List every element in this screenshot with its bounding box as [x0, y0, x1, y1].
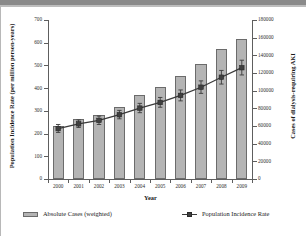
x-tick-mark — [232, 180, 233, 183]
y-right-tick-label: 140000 — [258, 53, 274, 58]
y-left-tick-label: 700 — [34, 17, 42, 22]
y-left-tick-label: 500 — [34, 63, 42, 68]
chart-legend: Absolute Cases (weighted) Population Inc… — [0, 208, 306, 222]
y-right-tick-mark — [253, 144, 257, 145]
x-tick-mark — [191, 180, 192, 183]
x-tick-label: 2009 — [228, 184, 256, 189]
y-left-tick-mark — [44, 134, 48, 135]
legend-label-incidence-rate: Population Incidence Rate — [202, 211, 269, 217]
x-tick-mark — [130, 180, 131, 183]
y-right-tick-mark — [253, 126, 257, 127]
x-tick-mark — [89, 180, 90, 183]
y-right-tick-mark — [253, 20, 257, 21]
legend-label-absolute-cases: Absolute Cases (weighted) — [43, 211, 112, 217]
x-tick-mark — [109, 180, 110, 183]
y-axis-right — [252, 20, 253, 180]
x-tick-mark — [252, 180, 253, 183]
x-tick-mark — [211, 180, 212, 183]
chart-figure: 0100200300400500600700 02000040000600008… — [0, 0, 306, 236]
x-tick-mark — [150, 180, 151, 183]
y-left-tick-label: 300 — [34, 108, 42, 113]
y-axis-left-title: Population Incidence Rate (per million p… — [9, 14, 15, 178]
legend-line-swatch-icon — [182, 211, 197, 218]
bar — [73, 119, 84, 179]
bar — [114, 107, 125, 179]
legend-item-incidence-rate: Population Incidence Rate — [182, 208, 269, 220]
bar — [53, 126, 64, 179]
bar — [134, 95, 145, 179]
y-right-tick-mark — [253, 108, 257, 109]
legend-bar-swatch-icon — [23, 212, 38, 217]
bar — [236, 39, 247, 179]
y-right-tick-mark — [253, 179, 257, 180]
x-axis-title: Year — [48, 195, 253, 201]
y-right-tick-mark — [253, 38, 257, 39]
y-left-tick-mark — [44, 20, 48, 21]
bar — [155, 87, 166, 179]
x-tick-mark — [48, 180, 49, 183]
y-right-tick-label: 20000 — [258, 159, 271, 164]
y-right-tick-label: 120000 — [258, 70, 274, 75]
y-axis-right-title: Cases of dialysis-requiring AKI — [290, 16, 296, 176]
x-tick-mark — [170, 180, 171, 183]
bar — [175, 76, 186, 179]
y-right-tick-mark — [253, 91, 257, 92]
bar — [93, 115, 104, 179]
y-right-tick-mark — [253, 73, 257, 74]
y-left-tick-mark — [44, 111, 48, 112]
y-left-tick-mark — [44, 43, 48, 44]
y-left-tick-mark — [44, 65, 48, 66]
y-right-tick-mark — [253, 161, 257, 162]
legend-item-absolute-cases: Absolute Cases (weighted) — [23, 208, 112, 220]
x-tick-mark — [68, 180, 69, 183]
y-left-tick-mark — [44, 88, 48, 89]
y-left-tick-mark — [44, 156, 48, 157]
y-axis-left — [48, 20, 49, 180]
y-right-tick-mark — [253, 55, 257, 56]
y-right-tick-label: 0 — [258, 176, 261, 181]
y-right-tick-label: 40000 — [258, 141, 271, 146]
y-right-tick-label: 100000 — [258, 88, 274, 93]
y-right-tick-label: 60000 — [258, 123, 271, 128]
y-left-tick-label: 400 — [34, 86, 42, 91]
y-left-tick-label: 600 — [34, 40, 42, 45]
y-right-tick-label: 80000 — [258, 106, 271, 111]
y-right-tick-label: 160000 — [258, 35, 274, 40]
y-right-tick-label: 180000 — [258, 17, 274, 22]
y-left-tick-label: 200 — [34, 131, 42, 136]
top-header-highlight — [0, 5, 306, 7]
y-left-tick-label: 0 — [39, 176, 42, 181]
bar — [216, 49, 227, 179]
left-border-rule — [0, 6, 1, 236]
bar — [195, 64, 206, 179]
y-left-tick-label: 100 — [34, 154, 42, 159]
